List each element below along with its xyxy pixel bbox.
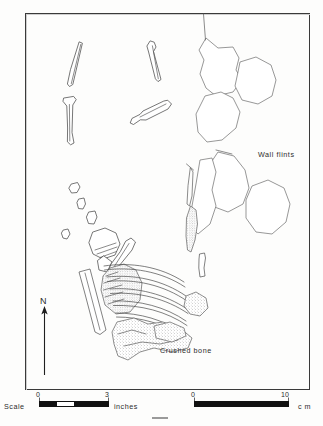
small-bone-chip-group xyxy=(62,183,98,240)
wall-flint-group-lower xyxy=(190,150,290,234)
scale-tick-inches-max: 3 xyxy=(105,391,109,398)
scale-tick-inches-min: 0 xyxy=(36,391,40,398)
caption-stub xyxy=(152,417,168,419)
scale-unit-cm: c m xyxy=(298,402,311,411)
scale-bar-segment xyxy=(40,402,57,406)
scale-bar-segment xyxy=(91,402,108,406)
plan-artwork xyxy=(0,0,323,426)
small-bone-chip-right xyxy=(199,253,206,277)
label-wall-flints: Wall flints xyxy=(258,150,295,159)
scale-bar-inches xyxy=(39,401,109,407)
site-plan-figure: Wall flints Crushed bone N Scale inches … xyxy=(0,0,323,426)
label-crushed-bone: Crushed bone xyxy=(160,346,212,355)
scale-caption: Scale xyxy=(4,402,24,411)
scale-tick-cm-max: 10 xyxy=(281,391,289,398)
label-north: N xyxy=(40,296,47,306)
scale-tick-cm-min: 0 xyxy=(191,391,195,398)
narrow-long-bone-lower-left xyxy=(79,269,106,335)
long-bone-fragment-group xyxy=(63,41,171,145)
wall-flint-group-upper xyxy=(196,14,276,142)
scale-unit-inches: inches xyxy=(114,402,138,411)
scale-bar-segment xyxy=(74,402,91,406)
scale-bar-cm xyxy=(194,401,289,407)
north-arrow xyxy=(41,306,47,375)
